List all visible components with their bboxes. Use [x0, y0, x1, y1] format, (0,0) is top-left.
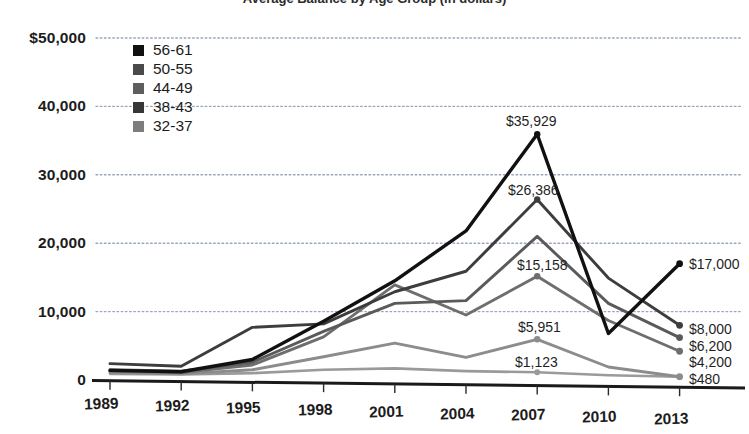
y-tick-label: 20,000 [38, 235, 86, 251]
y-tick-label: 10,000 [38, 304, 86, 320]
x-tick-label: 2001 [369, 403, 404, 419]
peak-marker-56-61 [534, 131, 540, 137]
legend-item-32-37: 32-37 [133, 117, 193, 135]
legend-item-50-55: 50-55 [133, 60, 193, 78]
legend-swatch-icon [133, 83, 144, 94]
legend-item-56-61: 56-61 [133, 41, 193, 59]
legend-label: 50-55 [153, 61, 193, 77]
series-line-50-55 [110, 200, 680, 367]
data-point-label: $480 [689, 372, 720, 386]
x-tick-label: 2010 [582, 409, 617, 425]
data-point-label: $6,200 [689, 339, 732, 353]
chart-title: Average Balance by Age Group (in dollars… [0, 0, 749, 6]
data-point-label: $15,158 [517, 258, 568, 272]
legend-item-38-43: 38-43 [133, 98, 193, 116]
legend-label: 44-49 [153, 80, 193, 96]
chart-container: Average Balance by Age Group (in dollars… [0, 0, 749, 434]
data-point-label: $4,200 [689, 355, 732, 369]
x-tick-label: 1995 [226, 399, 261, 415]
peak-marker-32-37 [534, 336, 540, 342]
y-tick-label: 0 [77, 372, 86, 388]
plot-area [0, 0, 749, 434]
legend-label: 38-43 [153, 99, 193, 115]
data-point-label: $5,951 [518, 320, 561, 334]
series-endpoint-50-55 [676, 322, 683, 329]
legend-swatch-icon [133, 102, 144, 113]
series-endpoint-44-49 [676, 334, 683, 341]
legend-swatch-icon [133, 45, 144, 56]
legend-swatch-icon [133, 64, 144, 75]
x-tick-label: 2007 [511, 407, 546, 423]
x-tick-label: 1992 [155, 397, 190, 413]
chart-legend: 56-6150-5544-4938-4332-37 [133, 41, 193, 135]
series-endpoint-38-43 [676, 348, 683, 355]
legend-label: 32-37 [153, 118, 193, 134]
y-tick-label: 30,000 [38, 167, 86, 183]
legend-swatch-icon [133, 121, 144, 132]
y-tick-label: $50,000 [29, 30, 86, 46]
y-tick-label: 40,000 [38, 98, 86, 114]
data-point-label: $8,000 [689, 322, 732, 336]
x-axis-line [92, 381, 745, 389]
series-line-44-49 [110, 236, 680, 371]
data-point-label: $26,386 [508, 183, 559, 197]
x-tick-label: 2013 [653, 411, 688, 427]
x-tick-label: 1989 [84, 396, 119, 412]
series-endpoint-56-61 [676, 260, 683, 267]
x-tick-label: 1998 [297, 401, 332, 417]
data-point-label: $17,000 [689, 257, 740, 271]
legend-item-44-49: 44-49 [133, 79, 193, 97]
x-tick-label: 2004 [440, 405, 475, 421]
legend-label: 56-61 [153, 42, 193, 58]
series-line-56-61 [110, 134, 680, 372]
y-axis: $50,00040,00030,00020,00010,0000 [0, 0, 86, 434]
data-point-label: $35,929 [506, 114, 557, 128]
series-endpoint-32-37 [676, 373, 683, 380]
peak-marker-lowest [534, 369, 540, 375]
peak-marker-38-43 [534, 273, 540, 279]
data-point-label: $1,123 [515, 355, 558, 369]
